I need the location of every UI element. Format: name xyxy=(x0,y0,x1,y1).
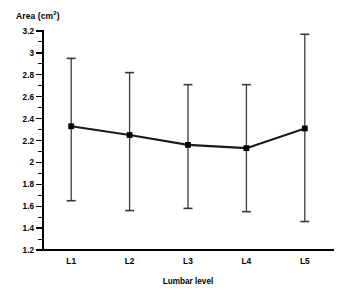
data-point-marker xyxy=(68,123,74,129)
data-series-layer xyxy=(0,0,359,297)
chart-container: Area (cm2) 3.232.82.62.42.221.81.61.41.2… xyxy=(0,0,359,297)
data-point-marker xyxy=(127,132,133,138)
data-point-marker xyxy=(302,126,308,132)
data-point-marker xyxy=(185,142,191,148)
data-point-marker xyxy=(244,145,250,151)
x-axis-title: Lumbar level xyxy=(163,277,214,286)
